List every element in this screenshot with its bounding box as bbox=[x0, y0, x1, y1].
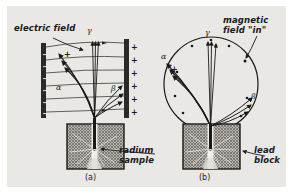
gamma-tracks-b bbox=[208, 42, 216, 126]
electric-field-label: electric field bbox=[14, 24, 75, 34]
field-line-arrowheads bbox=[102, 42, 107, 112]
beta-label-b: β bbox=[251, 92, 256, 101]
beta-tracks-a bbox=[95, 86, 124, 118]
positive-plate bbox=[124, 39, 129, 118]
gamma-label-b: γ bbox=[205, 28, 210, 37]
gamma-label-a: γ bbox=[87, 26, 92, 35]
magnetic-field-leader bbox=[246, 36, 257, 58]
panel-b: + γ α β magnetic field "in" lead block (… bbox=[153, 6, 286, 187]
radium-sample-label: radium sample bbox=[119, 146, 154, 165]
interior-plus-marker-b: + bbox=[171, 66, 178, 74]
figure-container: − − − − − − + + + + + + + γ α β electric… bbox=[7, 6, 286, 187]
caption-a: (a) bbox=[85, 173, 96, 182]
lead-block-label: lead block bbox=[254, 146, 280, 165]
alpha-tracks-a bbox=[59, 54, 95, 118]
interior-plus-marker-a: + bbox=[64, 51, 71, 59]
beta-label-a: β bbox=[111, 84, 116, 93]
alpha-label-a: α bbox=[56, 83, 61, 92]
magnetic-field-label: magnetic field "in" bbox=[223, 16, 268, 35]
gamma-tracks-a bbox=[93, 42, 99, 118]
alpha-label-b: α bbox=[161, 52, 166, 61]
beta-tracks-b bbox=[211, 98, 253, 126]
caption-b: (b) bbox=[199, 173, 210, 182]
